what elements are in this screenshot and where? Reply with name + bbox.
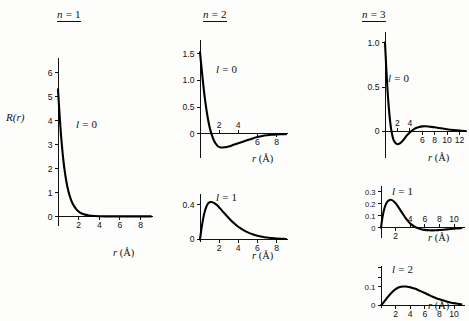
svg-text:6: 6 [48, 68, 53, 78]
x-axis-title-n3-l2-unit: (Å) [435, 300, 450, 311]
column-title-n3-symbol: n [362, 8, 368, 20]
x-axis-title-n2-l0-unit: (Å) [259, 153, 274, 164]
column-title-n2: n = 2 [203, 8, 227, 22]
svg-text:4: 4 [408, 309, 413, 319]
x-axis-title-n2-l1-unit: (Å) [259, 250, 274, 261]
annotation-n2-l1-eq: = [222, 191, 228, 203]
plot-n2-l0: 00.51.01.52468 [178, 34, 290, 162]
svg-text:1.5: 1.5 [183, 49, 195, 59]
svg-text:0.1: 0.1 [365, 212, 376, 221]
svg-text:8: 8 [138, 220, 143, 230]
svg-text:8: 8 [432, 135, 437, 145]
x-axis-title-n3-l2: r (Å) [428, 300, 449, 311]
plot-n1-l0: 01234562468 [40, 50, 155, 235]
svg-text:2: 2 [48, 164, 53, 174]
annotation-n3-l2: l = 2 [392, 263, 413, 275]
svg-text:8: 8 [274, 137, 279, 147]
x-axis-title-n1-l0-symbol: r [113, 247, 117, 258]
svg-text:0.3: 0.3 [365, 188, 376, 197]
column-title-n1-symbol: n [57, 8, 63, 20]
svg-text:8: 8 [437, 214, 442, 224]
plot-n3-l0: 00.51.024681012 [365, 26, 469, 162]
annotation-n3-l2-eq: = [398, 263, 404, 275]
svg-text:0.5: 0.5 [368, 82, 380, 92]
column-title-n2-eq: = [212, 8, 218, 20]
column-title-n1-value: 1 [75, 8, 81, 20]
radial-wavefunction-figure: n = 1 n = 2 n = 3 R(r) 01234562468 l = 0… [0, 0, 469, 321]
svg-text:6: 6 [420, 135, 425, 145]
annotation-n3-l2-symbol: l [392, 263, 395, 275]
annotation-n3-l1-value: 1 [408, 185, 414, 197]
column-title-n2-value: 2 [221, 8, 227, 20]
annotation-n2-l1: l = 1 [216, 191, 237, 203]
x-axis-title-n3-l2-symbol: r [428, 300, 432, 311]
annotation-n2-l0-value: 0 [232, 63, 238, 75]
x-axis-title-n3-l0: r (Å) [428, 152, 449, 163]
svg-text:1.0: 1.0 [368, 38, 380, 48]
svg-text:2: 2 [217, 120, 222, 130]
svg-text:10: 10 [449, 214, 459, 224]
panel-n3-l0: 00.51.024681012 [365, 26, 469, 162]
column-title-n3: n = 3 [362, 8, 386, 22]
svg-text:0: 0 [371, 301, 376, 310]
column-title-n1-eq: = [66, 8, 72, 20]
svg-text:2: 2 [76, 220, 81, 230]
svg-text:2: 2 [393, 309, 398, 319]
annotation-n2-l1-value: 1 [232, 191, 238, 203]
svg-text:2: 2 [217, 243, 222, 253]
annotation-n1-l0-value: 0 [92, 118, 98, 130]
svg-text:6: 6 [422, 214, 427, 224]
svg-text:0: 0 [375, 126, 380, 136]
annotation-n3-l1: l = 1 [392, 185, 413, 197]
annotation-n3-l1-eq: = [398, 185, 404, 197]
panel-n2-l0: 00.51.01.52468 [178, 34, 290, 162]
x-axis-title-n2-l1: r (Å) [252, 250, 273, 261]
svg-text:1: 1 [48, 188, 53, 198]
x-axis-title-n3-l1: r (Å) [428, 232, 449, 243]
svg-text:6: 6 [118, 220, 123, 230]
svg-text:4: 4 [97, 220, 102, 230]
x-axis-title-n2-l0: r (Å) [252, 153, 273, 164]
annotation-n2-l0-symbol: l [216, 63, 219, 75]
annotation-n3-l0-eq: = [394, 72, 400, 84]
svg-text:10: 10 [442, 135, 452, 145]
svg-text:0: 0 [48, 212, 53, 222]
svg-text:8: 8 [274, 243, 279, 253]
annotation-n3-l1-symbol: l [392, 185, 395, 197]
svg-text:6: 6 [422, 309, 427, 319]
svg-text:4: 4 [48, 116, 53, 126]
svg-text:5: 5 [48, 92, 53, 102]
column-title-n3-value: 3 [380, 8, 386, 20]
x-axis-title-n3-l0-unit: (Å) [435, 152, 450, 163]
svg-text:0.1: 0.1 [364, 283, 376, 292]
column-title-n3-eq: = [371, 8, 377, 20]
column-title-n2-symbol: n [203, 8, 209, 20]
x-axis-title-n1-l0: r (Å) [113, 247, 134, 258]
column-title-n1: n = 1 [57, 8, 81, 22]
svg-text:2: 2 [395, 118, 400, 128]
svg-text:1.0: 1.0 [183, 75, 195, 85]
svg-text:0.5: 0.5 [183, 102, 195, 112]
svg-text:4: 4 [236, 120, 241, 130]
svg-text:2: 2 [393, 231, 398, 241]
x-axis-title-n3-l1-unit: (Å) [435, 232, 450, 243]
svg-text:0: 0 [190, 234, 195, 244]
x-axis-title-n2-l1-symbol: r [252, 250, 256, 261]
svg-text:12: 12 [455, 135, 465, 145]
annotation-n2-l0: l = 0 [216, 63, 237, 75]
x-axis-title-n3-l1-symbol: r [428, 232, 432, 243]
annotation-n3-l0-value: 0 [404, 72, 410, 84]
svg-text:0: 0 [371, 224, 375, 233]
panel-n1-l0: 01234562468 [40, 50, 155, 235]
x-axis-title-n3-l0-symbol: r [428, 152, 432, 163]
x-axis-title-n2-l0-symbol: r [252, 153, 256, 164]
x-axis-title-n1-l0-unit: (Å) [120, 247, 135, 258]
annotation-n1-l0-symbol: l [76, 118, 79, 130]
annotation-n3-l0-symbol: l [388, 72, 391, 84]
annotation-n2-l1-symbol: l [216, 191, 219, 203]
svg-text:6: 6 [255, 137, 260, 147]
annotation-n3-l2-value: 2 [408, 263, 414, 275]
annotation-n2-l0-eq: = [222, 63, 228, 75]
svg-text:0.2: 0.2 [365, 200, 376, 209]
annotation-n1-l0-eq: = [82, 118, 88, 130]
